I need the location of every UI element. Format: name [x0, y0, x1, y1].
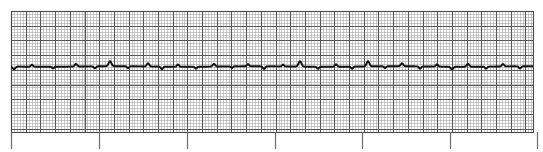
ecg-graph-canvas: [0, 0, 543, 152]
ecg-rhythm-strip: ECG Rhythm Strip Single-lead electrocard…: [0, 0, 543, 152]
